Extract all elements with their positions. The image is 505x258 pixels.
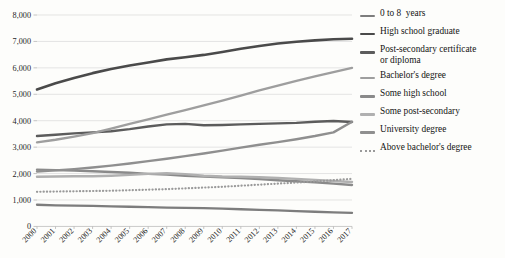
legend-item[interactable]: High school graduate (360, 26, 505, 39)
legend-item[interactable]: Some high school (360, 88, 505, 101)
y-axis-tick-label: 5,000 (13, 90, 31, 99)
legend-item-label: Some high school (380, 88, 447, 98)
x-axis-tick-label: 2014 (280, 226, 298, 244)
legend-swatch-icon (360, 11, 375, 21)
x-axis-tick-label: 2004 (95, 226, 113, 244)
chart-legend: 0 to 8 yearsHigh school graduatePost-sec… (360, 8, 505, 161)
x-axis-tick-label: 2008 (169, 226, 187, 244)
legend-item-label: University degree (380, 124, 446, 134)
legend-item-label: Bachelor's degree (380, 70, 446, 80)
x-axis-tick-label: 2005 (113, 226, 131, 244)
legend-item[interactable]: University degree (360, 124, 505, 137)
series-line (37, 68, 352, 143)
x-axis-tick-label: 2007 (150, 226, 168, 244)
series-line (37, 205, 352, 213)
x-axis-tick-label: 2010 (206, 226, 224, 244)
legend-item-label: Above bachelor's degree (380, 142, 472, 152)
x-axis-tick-label: 2015 (298, 226, 316, 244)
x-axis-tick-label: 2002 (58, 226, 76, 244)
y-axis-tick-label: 3,000 (13, 143, 31, 152)
y-axis-tick-label: 8,000 (13, 11, 31, 20)
legend-swatch-icon (360, 109, 375, 119)
series-line (37, 122, 352, 172)
y-axis-tick-label: 2,000 (13, 170, 31, 179)
legend-item[interactable]: Above bachelor's degree (360, 142, 505, 155)
x-axis-tick-label: 2009 (187, 226, 205, 244)
x-axis-tick-label: 2016 (317, 226, 335, 244)
legend-swatch-icon (360, 145, 375, 155)
line-chart: 01,0002,0003,0004,0005,0006,0007,0008,00… (0, 0, 505, 258)
x-axis-tick-label: 2013 (261, 226, 279, 244)
x-axis-tick-label: 2000 (20, 226, 38, 244)
legend-item[interactable]: Some post-secondary (360, 106, 505, 119)
legend-swatch-icon (360, 47, 375, 57)
x-axis-tick-label: 2017 (335, 226, 353, 244)
legend-item-label: 0 to 8 years (380, 8, 425, 18)
legend-item[interactable]: 0 to 8 years (360, 8, 505, 21)
x-axis-tick-label: 2001 (39, 226, 57, 244)
legend-item-label: Post-secondary certificate or diploma (380, 44, 476, 65)
series-line (37, 39, 352, 90)
legend-item[interactable]: Bachelor's degree (360, 70, 505, 83)
y-axis-tick-label: 1,000 (13, 196, 31, 205)
legend-swatch-icon (360, 73, 375, 83)
legend-swatch-icon (360, 127, 375, 137)
legend-item-label: Some post-secondary (380, 106, 460, 116)
x-axis-tick-label: 2012 (243, 226, 261, 244)
legend-item[interactable]: Post-secondary certificate or diploma (360, 44, 505, 65)
legend-swatch-icon (360, 29, 375, 39)
x-axis-tick-label: 2011 (225, 226, 243, 244)
legend-item-label: High school graduate (380, 26, 460, 36)
x-axis-tick-label: 2003 (76, 226, 94, 244)
legend-swatch-icon (360, 91, 375, 101)
y-axis-tick-label: 7,000 (13, 37, 31, 46)
y-axis-tick-label: 6,000 (13, 64, 31, 73)
y-axis-tick-label: 4,000 (13, 117, 31, 126)
x-axis-tick-label: 2006 (132, 226, 150, 244)
